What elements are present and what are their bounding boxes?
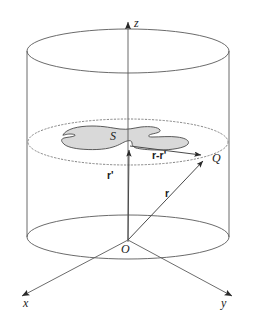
x-axis-line (22, 240, 128, 296)
vector-r-line (128, 161, 203, 240)
vector-r-label: r (165, 188, 169, 199)
vector-r-prime-label: r' (107, 170, 114, 181)
z-axis-label: z (134, 17, 139, 29)
point-q-label: Q (212, 152, 221, 164)
y-axis-line (128, 240, 232, 296)
surface-s-region (62, 126, 189, 150)
vector-geometry-figure: z x y O Q S r' r r-r' (0, 0, 259, 321)
vector-r-minus-r-prime-label: r-r' (152, 150, 166, 161)
x-axis-label: x (23, 297, 28, 309)
y-axis-label: y (221, 297, 226, 309)
surface-s-label: S (110, 130, 116, 142)
origin-label: O (121, 243, 130, 255)
